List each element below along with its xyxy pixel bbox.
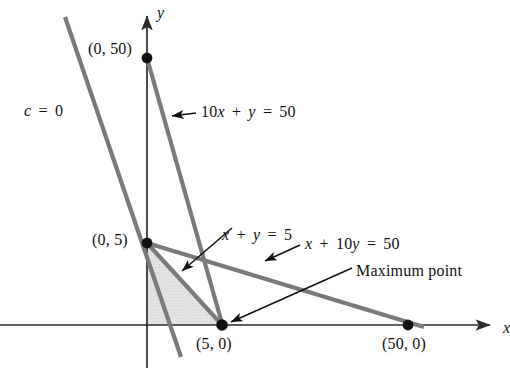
point-label-0-5: (0, 5) xyxy=(92,232,128,248)
point-label-50-0: (50, 0) xyxy=(382,336,426,352)
point-5-0 xyxy=(216,319,228,331)
objective-line-c-equals-0 xyxy=(65,17,181,357)
maximum-point-label: Maximum point xyxy=(356,263,462,279)
point-0-50 xyxy=(142,53,153,64)
y-axis-label: y xyxy=(157,5,164,21)
objective-label: c = 0 xyxy=(24,103,63,119)
linear-programming-plot xyxy=(0,0,510,370)
figure-canvas: y x (0, 50) (0, 5) (5, 0) (50, 0) c = 0 … xyxy=(0,0,510,370)
constraint-label-10x-plus-y: 10x + y = 50 xyxy=(201,104,296,120)
constraint-label-x-plus-y: x + y = 5 xyxy=(222,227,292,243)
point-label-0-50: (0, 50) xyxy=(88,41,132,57)
point-label-5-0: (5, 0) xyxy=(196,336,232,352)
leader-x-plus-10y xyxy=(265,245,300,261)
point-0-5 xyxy=(142,238,153,249)
constraint-label-x-plus-10y: x + 10y = 50 xyxy=(305,236,400,252)
point-50-0 xyxy=(403,320,414,331)
leader-10x-plus-y xyxy=(172,113,196,116)
x-axis-label: x xyxy=(503,320,510,336)
